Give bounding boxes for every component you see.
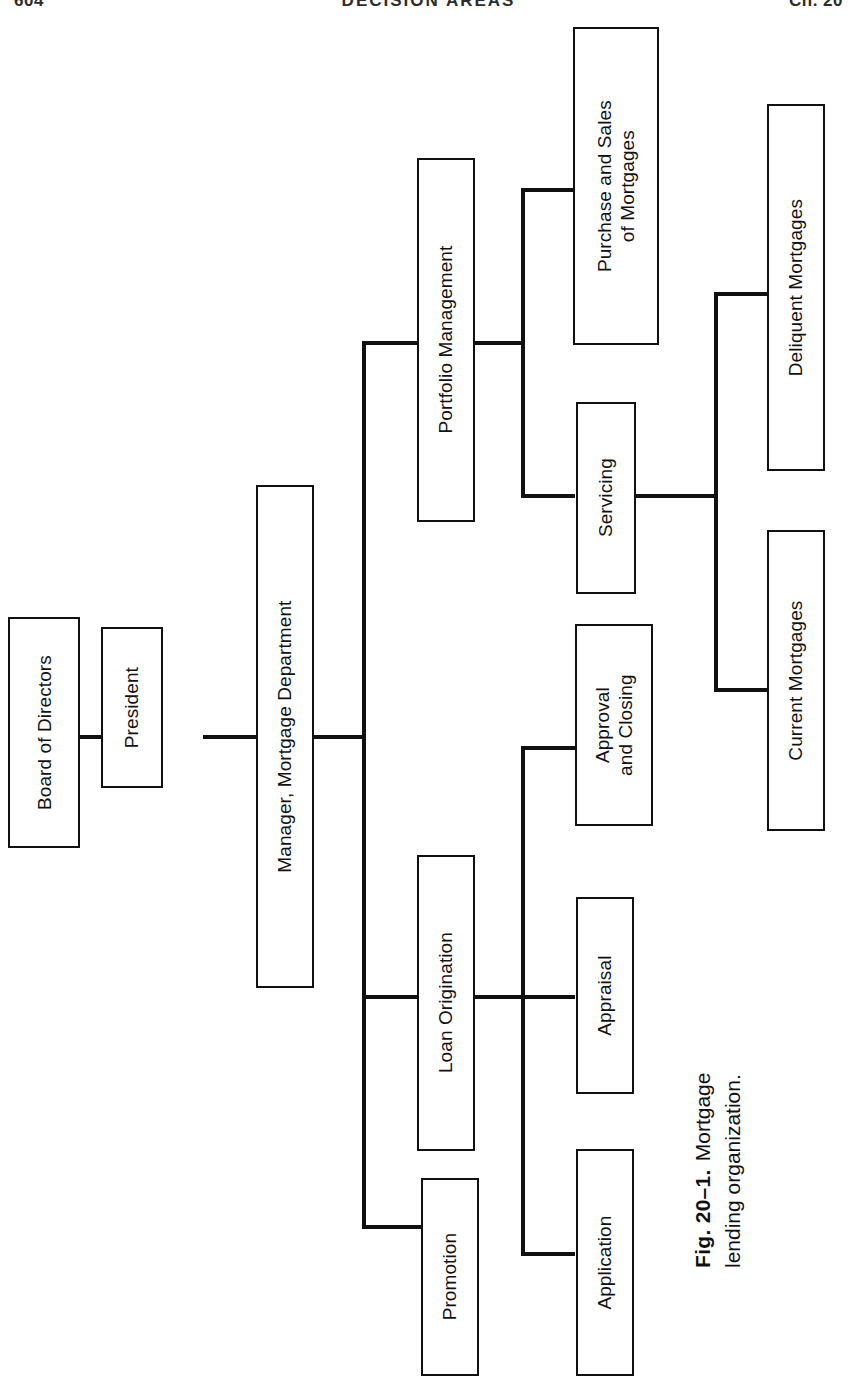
connector-loan-origination-to-spine: [473, 995, 525, 999]
node-label: Loan Origination: [434, 932, 457, 1073]
node-current-mortgages[interactable]: Current Mortgages: [767, 530, 825, 831]
node-manager-mortgage-department[interactable]: Manager, Mortgage Department: [256, 485, 314, 988]
connector-portfolio-to-purchase-sales: [521, 188, 575, 192]
node-label: Portfolio Management: [434, 246, 457, 434]
node-deliquent-mortgages[interactable]: Deliquent Mortgages: [767, 104, 825, 471]
node-promotion[interactable]: Promotion: [421, 1178, 479, 1376]
figure-caption: Fig. 20–1.Mortgage lending organization.: [688, 1073, 749, 1268]
connector-portfolio-to-servicing: [521, 494, 575, 498]
node-label: President: [120, 667, 143, 748]
connector-spine-to-portfolio: [362, 341, 418, 345]
connector-manager-to-spine: [311, 735, 366, 739]
node-label: Promotion: [438, 1233, 461, 1321]
spine-level3: [362, 341, 366, 1229]
node-label: Manager, Mortgage Department: [273, 600, 296, 872]
node-label: Application: [593, 1215, 616, 1309]
connector-spine-to-loan-origination: [362, 995, 418, 999]
figure-caption-line-1: Fig. 20–1.Mortgage: [688, 1073, 718, 1268]
connector-spine-to-promotion: [362, 1225, 422, 1229]
connector-loan-to-application: [521, 1252, 575, 1256]
node-loan-origination[interactable]: Loan Origination: [417, 855, 475, 1151]
node-label: Appraisal: [593, 955, 616, 1035]
node-label: Current Mortgages: [784, 600, 807, 760]
node-approval-and-closing[interactable]: Approval and Closing: [575, 624, 653, 826]
figure-caption-line-2: lending organization.: [718, 1073, 748, 1268]
node-label: Approval and Closing: [591, 674, 637, 775]
node-label: Deliquent Mortgages: [784, 199, 807, 376]
node-label: Servicing: [594, 458, 617, 537]
connector-servicing-to-spine: [636, 494, 718, 498]
spine-loan-origination-children: [521, 746, 525, 1256]
node-application[interactable]: Application: [576, 1149, 634, 1376]
chapter-marker: Ch. 20: [789, 0, 843, 11]
figure-caption-title: Mortgage: [691, 1073, 714, 1162]
connector-servicing-to-current: [714, 688, 770, 692]
book-page: 604 DECISION AREAS Ch. 20 Board of Direc…: [0, 0, 857, 1376]
figure-number: Fig. 20–1.: [691, 1169, 714, 1268]
node-portfolio-management[interactable]: Portfolio Management: [417, 158, 475, 522]
node-label: Board of Directors: [32, 655, 55, 810]
connector-loan-to-approval-closing: [521, 746, 575, 750]
node-president[interactable]: President: [101, 627, 163, 788]
connector-portfolio-to-spine: [473, 341, 525, 345]
connector-servicing-to-deliquent: [714, 292, 770, 296]
connector-loan-to-appraisal: [521, 995, 575, 999]
node-purchase-and-sales-of-mortgages[interactable]: Purchase and Sales of Mortgages: [573, 27, 659, 345]
spine-portfolio-children: [521, 188, 525, 498]
connector-president-to-manager: [203, 735, 259, 739]
node-appraisal[interactable]: Appraisal: [576, 897, 634, 1094]
node-board-of-directors[interactable]: Board of Directors: [8, 617, 80, 848]
running-head-title: DECISION AREAS: [0, 0, 857, 11]
node-label: Purchase and Sales of Mortgages: [593, 100, 639, 272]
node-servicing[interactable]: Servicing: [576, 402, 636, 594]
spine-servicing-children: [714, 292, 718, 692]
